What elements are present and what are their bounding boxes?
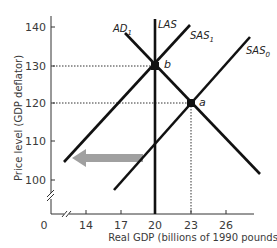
x-tick-14: 14 bbox=[79, 219, 93, 232]
x-axis-label: Real GDP (billions of 1990 pounds) bbox=[108, 232, 277, 243]
y-tick-100: 100 bbox=[25, 174, 46, 187]
sas1-label: SAS1 bbox=[190, 30, 214, 44]
las-label: LAS bbox=[158, 19, 177, 30]
point-b-label: b bbox=[164, 58, 171, 71]
y-tick-120: 120 bbox=[25, 97, 46, 110]
point-b-marker bbox=[151, 62, 159, 70]
y-tick-140: 140 bbox=[25, 21, 46, 34]
ad1-label: AD1 bbox=[112, 23, 132, 37]
chart-canvas: Price level (GDP deflator) 140 130 120 1… bbox=[0, 0, 277, 248]
guide-lines bbox=[53, 66, 191, 214]
y-axis bbox=[47, 16, 55, 214]
y-axis-label: Price level (GDP deflator) bbox=[13, 55, 24, 181]
sas0-curve bbox=[114, 37, 250, 190]
sas1-curve bbox=[64, 25, 190, 162]
y-tick-110: 110 bbox=[25, 135, 46, 148]
x-tick-26: 26 bbox=[219, 219, 233, 232]
point-a-label: a bbox=[199, 96, 206, 109]
y-tick-130: 130 bbox=[25, 60, 46, 73]
sas0-label: SAS0 bbox=[246, 45, 271, 59]
x-tick-0: 0 bbox=[41, 219, 48, 232]
point-a-marker bbox=[187, 99, 195, 107]
leftward-shift-arrow bbox=[72, 149, 143, 167]
x-tick-17: 17 bbox=[114, 219, 128, 232]
x-tick-20: 20 bbox=[148, 219, 162, 232]
x-tick-23: 23 bbox=[184, 219, 198, 232]
x-axis bbox=[51, 210, 254, 217]
